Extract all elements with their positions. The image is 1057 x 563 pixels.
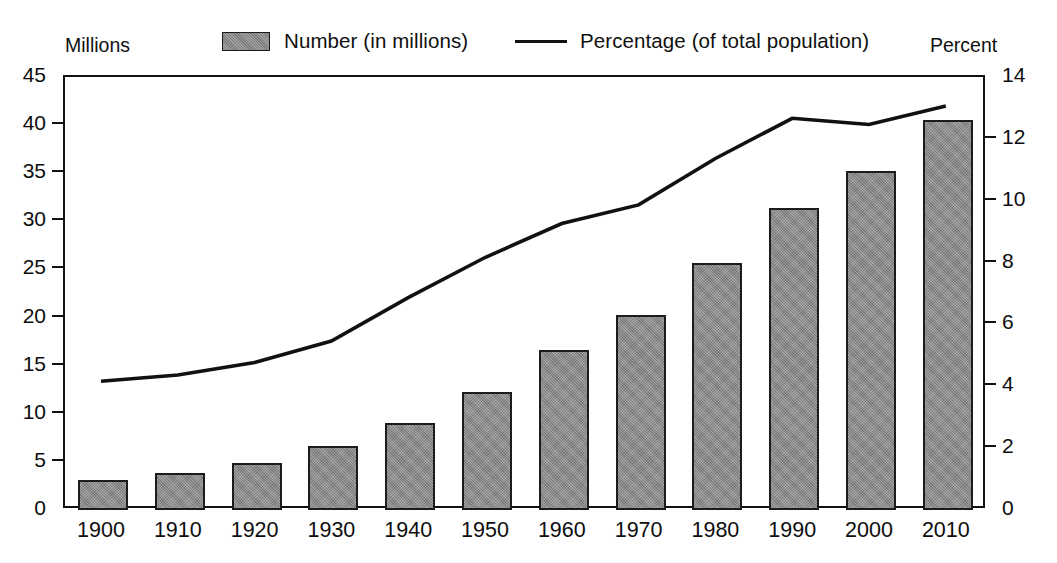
category-label: 1980 (691, 518, 739, 543)
bar (846, 171, 896, 510)
right-axis-tick-label: 4 (1002, 373, 1014, 394)
chart-figure: Number (in millions) Percentage (of tota… (0, 0, 1057, 563)
bars-layer (65, 77, 983, 506)
bar (308, 446, 358, 510)
bar (78, 480, 128, 510)
category-label: 1940 (384, 518, 432, 543)
bar (232, 463, 282, 510)
right-axis-tick-label: 6 (1002, 311, 1014, 332)
right-axis-tick (984, 198, 996, 200)
right-axis-tick-label: 10 (1002, 188, 1025, 209)
category-label: 2000 (845, 518, 893, 543)
legend-item-number: Number (in millions) (222, 28, 468, 54)
right-axis-tick (984, 260, 996, 262)
right-axis-tick-label: 12 (1002, 126, 1025, 147)
bar (692, 263, 742, 510)
bar (769, 208, 819, 510)
chart-legend: Number (in millions) Percentage (of tota… (0, 28, 1057, 58)
legend-line-percentage-icon (515, 40, 567, 43)
left-axis-tick-label: 10 (2, 401, 46, 422)
left-axis-tick-label: 15 (2, 353, 46, 374)
right-axis-tick-label: 8 (1002, 250, 1014, 271)
left-axis-tick-label: 30 (2, 208, 46, 229)
right-axis-tick-label: 0 (1002, 497, 1014, 518)
left-axis-tick-label: 5 (2, 449, 46, 470)
category-label: 1910 (154, 518, 202, 543)
right-axis-tick (984, 136, 996, 138)
legend-label-percentage: Percentage (of total population) (580, 29, 869, 53)
right-axis-tick (984, 383, 996, 385)
right-axis-caption: Percent (930, 34, 997, 57)
left-axis-tick-label: 45 (2, 64, 46, 85)
legend-swatch-number-icon (222, 32, 270, 51)
category-label: 1990 (768, 518, 816, 543)
bar (462, 392, 512, 510)
category-label: 1930 (307, 518, 355, 543)
category-label: 1920 (231, 518, 279, 543)
left-axis-tick-label: 25 (2, 256, 46, 277)
category-label: 1960 (538, 518, 586, 543)
category-label: 1900 (77, 518, 125, 543)
legend-label-number: Number (in millions) (284, 29, 468, 53)
legend-item-percentage: Percentage (of total population) (515, 28, 869, 54)
left-axis-tick-label: 35 (2, 160, 46, 181)
left-axis-tick-label: 20 (2, 305, 46, 326)
category-label: 2010 (922, 518, 970, 543)
right-axis-tick (984, 321, 996, 323)
bar (923, 120, 973, 510)
category-label: 1970 (615, 518, 663, 543)
bar (155, 473, 205, 510)
right-axis-tick (984, 445, 996, 447)
right-axis-tick-label: 2 (1002, 435, 1014, 456)
bar (616, 315, 666, 510)
bar (385, 423, 435, 510)
bar (539, 350, 589, 510)
plot-area (63, 75, 985, 508)
left-axis-caption: Millions (65, 34, 130, 57)
right-axis-tick-label: 14 (1002, 64, 1025, 85)
left-axis-tick-label: 40 (2, 112, 46, 133)
category-label: 1950 (461, 518, 509, 543)
left-axis-tick-label: 0 (2, 497, 46, 518)
